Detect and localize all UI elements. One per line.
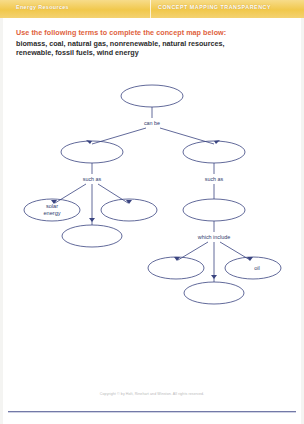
- arrowhead-left-bottom: [89, 218, 95, 222]
- header-band: Energy Resources CONCEPT MAPPING TRANSPA…: [0, 0, 304, 18]
- arrowhead-right-branch: [214, 140, 220, 144]
- header-divider: [150, 0, 151, 18]
- node-left-child-c-ellipse: [62, 225, 122, 247]
- node-left-branch-ellipse: [61, 141, 123, 163]
- instruction-text: Use the following terms to complete the …: [16, 28, 291, 37]
- connector-left-suchas-a: [55, 184, 86, 203]
- connector-label-such-as-left: such as: [83, 176, 102, 182]
- node-label-solar-energy-line1: solar: [46, 203, 58, 209]
- node-oil-ellipse: [225, 257, 281, 279]
- footer-rule-secondary: [8, 412, 296, 413]
- header-sheet-type: CONCEPT MAPPING TRANSPARENCY: [158, 4, 271, 10]
- node-right-branch-ellipse: [183, 141, 245, 163]
- worksheet-page: Energy Resources CONCEPT MAPPING TRANSPA…: [0, 0, 304, 424]
- node-label-solar-energy-line2: energy: [43, 210, 60, 216]
- connector-label-can-be: can be: [144, 120, 160, 126]
- node-root-ellipse: [121, 85, 183, 107]
- arrowhead-which-bottom: [211, 275, 217, 279]
- connector-left-suchas-c: [98, 184, 128, 203]
- node-right-child-parent-ellipse: [183, 199, 245, 221]
- word-bank-line-2: renewable, fossil fuels, wind energy: [16, 49, 294, 58]
- node-label-oil: oil: [254, 265, 260, 271]
- concept-map: can be such as such as which include sol…: [0, 70, 304, 360]
- connector-label-which-include: which include: [197, 234, 230, 240]
- copyright-notice: Copyright © by Holt, Rinehart and Winsto…: [0, 392, 304, 396]
- word-bank: biomass, coal, natural gas, nonrenewable…: [16, 40, 294, 57]
- arrowhead-left-branch: [86, 140, 92, 144]
- connector-label-such-as-right: such as: [205, 176, 224, 182]
- header-topic-title: Energy Resources: [16, 4, 69, 10]
- node-right-child-a-ellipse: [148, 257, 204, 279]
- node-right-child-c-ellipse: [184, 282, 244, 304]
